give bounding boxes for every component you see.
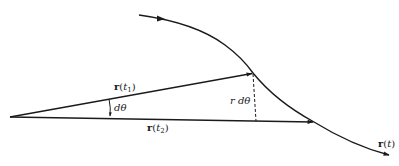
label-r-t2: r(t2) <box>147 122 169 135</box>
label-r-t1: r(t1) <box>114 81 136 94</box>
polar-differential-diagram: r(t1) dθ r(t2) r dθ r(t) <box>0 0 399 166</box>
label-r-d-theta: r dθ <box>230 95 250 106</box>
arc-length-segment <box>253 74 256 121</box>
angle-d-theta-arc <box>109 99 110 116</box>
curve-r-t <box>139 15 389 155</box>
label-d-theta: dθ <box>114 102 126 113</box>
label-r-t: r(t) <box>378 138 395 149</box>
vector-r-t2 <box>10 117 313 122</box>
curve-direction-arrow-icon <box>157 16 165 22</box>
